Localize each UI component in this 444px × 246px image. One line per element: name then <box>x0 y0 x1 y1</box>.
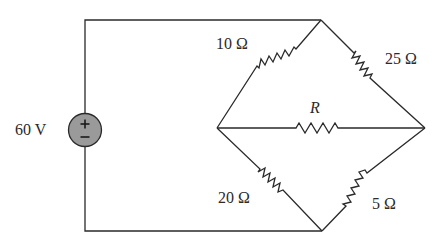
resistor-5-ohm-label: 5 Ω <box>372 196 396 212</box>
resistor-10-ohm-label: 10 Ω <box>216 36 248 52</box>
circuit-diagram: 60 V 10 Ω 25 Ω R 20 Ω 5 Ω <box>0 0 444 246</box>
top-wire <box>85 20 321 113</box>
voltage-source-icon <box>69 114 102 147</box>
resistor-25-ohm-label: 25 Ω <box>385 51 417 67</box>
resistor-R-label: R <box>310 100 320 116</box>
resistor-R <box>217 123 425 133</box>
resistor-20-ohm <box>217 128 322 231</box>
resistor-20-ohm-label: 20 Ω <box>218 190 250 206</box>
source-voltage-label: 60 V <box>15 122 46 138</box>
resistor-5-ohm <box>322 128 425 231</box>
resistor-25-ohm <box>321 20 425 128</box>
bottom-wire <box>85 147 322 231</box>
